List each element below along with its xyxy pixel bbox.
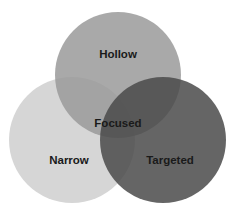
venn-diagram: Hollow Narrow Targeted Focused xyxy=(0,0,241,216)
label-narrow: Narrow xyxy=(49,154,89,166)
circle-targeted xyxy=(100,77,226,203)
label-targeted: Targeted xyxy=(146,154,194,166)
label-focused: Focused xyxy=(94,117,141,129)
label-hollow: Hollow xyxy=(99,48,137,60)
